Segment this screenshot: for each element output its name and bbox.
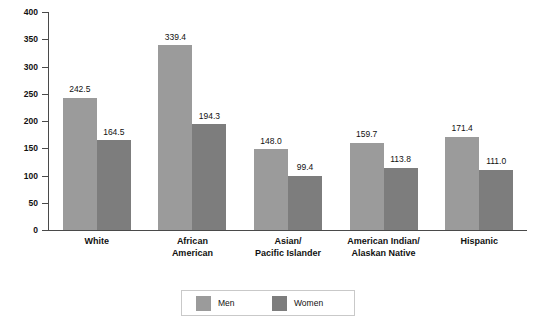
x-axis-category-labels: WhiteAfrican AmericanAsian/ Pacific Isla…	[49, 236, 527, 268]
y-axis-tick-label: 400	[0, 8, 38, 17]
y-axis-tick	[42, 67, 49, 68]
legend-swatch-women-icon	[272, 296, 287, 311]
y-axis-tick	[42, 94, 49, 95]
y-axis-tick-label: 0	[0, 226, 38, 235]
bar-value-label: 113.8	[375, 155, 427, 164]
y-axis-tick-label: 150	[0, 144, 38, 153]
x-axis-line	[48, 230, 527, 231]
category-label: Hispanic	[419, 236, 537, 248]
y-axis-tick	[42, 230, 49, 231]
bar-women	[288, 176, 322, 230]
legend-swatch-men-icon	[196, 296, 211, 311]
bar-value-label: 148.0	[245, 137, 297, 146]
legend-label-women: Women	[294, 299, 323, 308]
bar-group: 171.4111.0	[445, 12, 513, 230]
y-axis-tick-label: 100	[0, 171, 38, 180]
bar-value-label: 111.0	[470, 157, 522, 166]
y-axis-tick	[42, 176, 49, 177]
bar-chart: 400350300250200150100500 242.5164.5339.4…	[0, 0, 537, 324]
y-axis-tick-label: 250	[0, 90, 38, 99]
legend-label-men: Men	[218, 299, 235, 308]
y-axis-tick	[42, 39, 49, 40]
bar-value-label: 339.4	[149, 33, 201, 42]
y-axis-tick-label: 200	[0, 117, 38, 126]
bar-value-label: 99.4	[279, 163, 331, 172]
bar-men	[158, 45, 192, 230]
y-axis-tick	[42, 121, 49, 122]
y-axis-tick-label: 300	[0, 62, 38, 71]
bar-group: 159.7113.8	[350, 12, 418, 230]
chart-legend: Men Women	[181, 290, 355, 316]
legend-item-women: Women	[272, 296, 323, 311]
bar-value-label: 242.5	[54, 85, 106, 94]
bar-value-label: 171.4	[436, 124, 488, 133]
bar-group: 339.4194.3	[158, 12, 226, 230]
legend-item-men: Men	[196, 296, 235, 311]
y-axis-tick-label: 350	[0, 35, 38, 44]
y-axis-tick	[42, 148, 49, 149]
bar-women	[97, 140, 131, 230]
y-axis-tick-label: 50	[0, 199, 38, 208]
bar-men	[63, 98, 97, 230]
bar-group: 148.099.4	[254, 12, 322, 230]
bar-women	[384, 168, 418, 230]
y-axis-tick	[42, 12, 49, 13]
bar-value-label: 194.3	[183, 112, 235, 121]
bar-women	[479, 170, 513, 230]
bar-men	[445, 137, 479, 230]
bar-men	[254, 149, 288, 230]
bar-women	[192, 124, 226, 230]
y-axis-tick	[42, 203, 49, 204]
bar-value-label: 164.5	[88, 128, 140, 137]
bar-value-label: 159.7	[341, 130, 393, 139]
bar-group: 242.5164.5	[63, 12, 131, 230]
bar-groups: 242.5164.5339.4194.3148.099.4159.7113.81…	[49, 12, 527, 230]
